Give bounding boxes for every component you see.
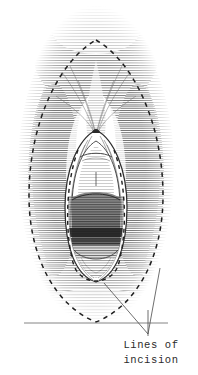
caption-line-2: incision	[104, 353, 198, 368]
caption-line-1: Lines of	[104, 338, 198, 353]
figure-container: Lines of incision	[0, 0, 198, 375]
anatomical-illustration	[0, 0, 198, 375]
incision-caption: Lines of incision	[104, 338, 198, 368]
